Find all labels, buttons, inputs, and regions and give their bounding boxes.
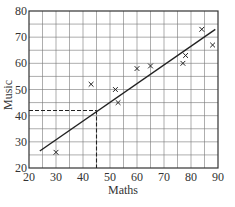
data-point-cross-icon — [210, 43, 215, 48]
data-point-cross-icon — [199, 27, 204, 32]
fit-line — [40, 29, 216, 151]
y-tick-label: 50 — [15, 83, 27, 97]
y-tick-label: 70 — [15, 30, 27, 44]
grid-lines — [29, 11, 218, 168]
x-tick-label: 30 — [50, 170, 62, 184]
x-tick-label: 60 — [131, 170, 143, 184]
y-tick-label: 40 — [15, 109, 27, 123]
x-axis-label: Maths — [108, 183, 138, 197]
data-point-cross-icon — [183, 53, 188, 58]
y-tick-label: 80 — [15, 4, 27, 18]
y-axis-label: Music — [1, 80, 15, 110]
x-tick-label: 50 — [104, 170, 116, 184]
y-tick-label: 30 — [15, 135, 27, 149]
x-tick-label: 80 — [185, 170, 197, 184]
line-of-best-fit — [40, 29, 216, 151]
data-point-cross-icon — [89, 82, 94, 87]
x-tick-label: 40 — [77, 170, 89, 184]
x-tick-label: 90 — [212, 170, 224, 184]
scatter-chart: 2030405060708090 20304050607080 Maths Mu… — [0, 0, 235, 207]
y-tick-label: 20 — [15, 161, 27, 175]
y-axis-ticks: 20304050607080 — [15, 4, 27, 175]
y-tick-label: 60 — [15, 56, 27, 70]
x-tick-label: 70 — [158, 170, 170, 184]
x-axis-ticks: 2030405060708090 — [23, 170, 224, 184]
